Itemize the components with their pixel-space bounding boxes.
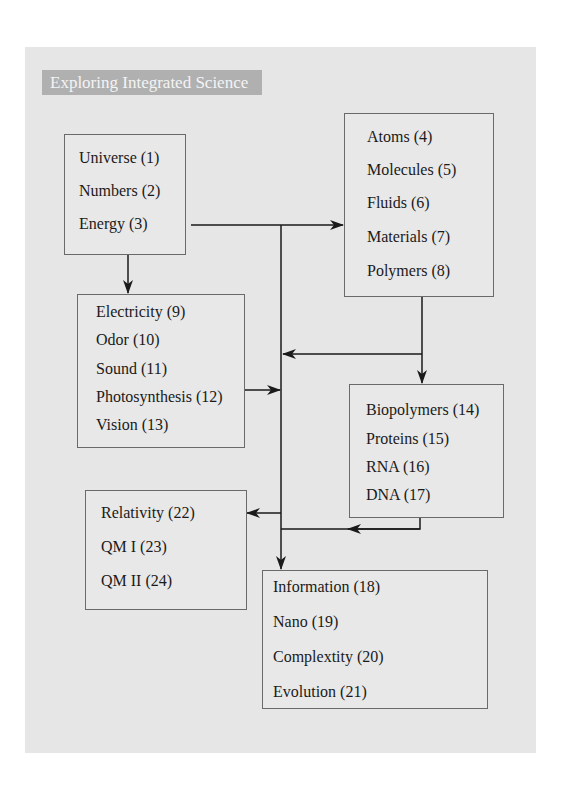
topic-atoms: Atoms (4) [367,128,432,146]
topic-sound: Sound (11) [96,360,167,378]
topic-dna: DNA (17) [366,486,430,504]
topic-polymers: Polymers (8) [367,262,450,280]
topic-qm-1: QM I (23) [101,538,167,556]
box-matter: Atoms (4) Molecules (5) Fluids (6) Mater… [344,113,494,297]
topic-vision: Vision (13) [96,416,168,434]
topic-odor: Odor (10) [96,331,160,349]
topic-fluids: Fluids (6) [367,194,430,212]
topic-relativity: Relativity (22) [101,504,195,522]
topic-complexity: Complextity (20) [273,648,384,666]
topic-proteins: Proteins (15) [366,430,449,448]
topic-photosynthesis: Photosynthesis (12) [96,388,223,406]
topic-information: Information (18) [273,578,380,596]
topic-rna: RNA (16) [366,458,430,476]
box-biology: Biopolymers (14) Proteins (15) RNA (16) … [349,384,504,518]
box-foundations: Universe (1) Numbers (2) Energy (3) [64,134,186,255]
topic-numbers: Numbers (2) [79,182,160,200]
topic-nano: Nano (19) [273,613,338,631]
topic-universe: Universe (1) [79,149,159,167]
box-synthesis: Information (18) Nano (19) Complextity (… [262,570,488,709]
topic-molecules: Molecules (5) [367,161,456,179]
topic-electricity: Electricity (9) [96,303,185,321]
topic-qm-2: QM II (24) [101,572,172,590]
box-physics: Relativity (22) QM I (23) QM II (24) [85,490,247,610]
line-biology-to-trunk [281,517,420,529]
topic-biopolymers: Biopolymers (14) [366,401,479,419]
topic-materials: Materials (7) [367,228,450,246]
box-phenomena: Electricity (9) Odor (10) Sound (11) Pho… [77,294,245,448]
topic-evolution: Evolution (21) [273,683,367,701]
topic-energy: Energy (3) [79,215,148,233]
